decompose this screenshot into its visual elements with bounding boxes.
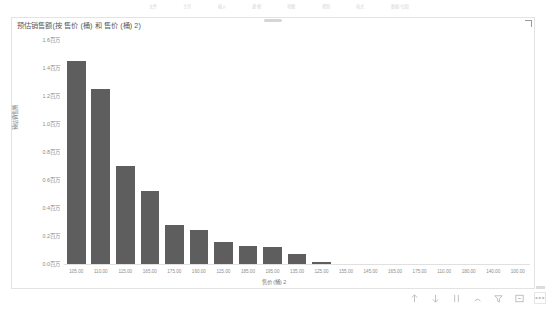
x-label-slot: 110.00 — [432, 266, 457, 278]
x-label-slot: 125.00 — [309, 266, 334, 278]
x-label-slot: 105.00 — [64, 266, 89, 278]
bar-slot — [407, 18, 432, 290]
more-options-dots: ••• — [535, 294, 545, 302]
more-options-icon[interactable]: ••• — [534, 292, 546, 304]
bar-slot — [89, 18, 114, 290]
scrollbar-thumb[interactable] — [536, 286, 545, 289]
visual-header-toolbar: ••• — [408, 292, 546, 304]
bar-slot — [236, 18, 261, 290]
x-label-slot: 115.00 — [113, 266, 138, 278]
y-axis-tick-label: 0.6百万 — [43, 176, 61, 184]
focus-mode-icon[interactable] — [513, 292, 525, 304]
x-label-slot: 175.00 — [162, 266, 187, 278]
y-axis-tick-labels: 1.6百万1.4百万1.2百万1.0百万0.8百万0.6百万0.4百万0.2百万… — [22, 18, 62, 290]
x-label-slot: 175.00 — [407, 266, 432, 278]
bar-slot — [358, 18, 383, 290]
x-axis-tick-label: 145.00 — [364, 269, 378, 274]
x-axis-tick-label: 165.00 — [143, 269, 157, 274]
x-axis-tick-label: 195.00 — [265, 269, 279, 274]
y-axis-tick-label: 0.4百万 — [43, 204, 61, 212]
y-axis-tick-label: 0.8百万 — [43, 148, 61, 156]
x-label-slot: 135.00 — [285, 266, 310, 278]
x-axis-tick-label: 105.00 — [69, 269, 83, 274]
bar[interactable] — [116, 166, 135, 264]
bar[interactable] — [141, 191, 160, 264]
bar-slot — [211, 18, 236, 290]
x-axis-tick-label: 175.00 — [167, 269, 181, 274]
x-label-slot: 180.00 — [456, 266, 481, 278]
plot-area: 预估销售额 1.6百万1.4百万1.2百万1.0百万0.8百万0.6百万0.4百… — [12, 18, 536, 290]
bar[interactable] — [214, 242, 233, 264]
x-label-slot: 110.00 — [89, 266, 114, 278]
x-axis-tick-label: 175.00 — [413, 269, 427, 274]
bar-slot — [334, 18, 359, 290]
x-label-slot: 160.00 — [187, 266, 212, 278]
bar-slot — [481, 18, 506, 290]
y-axis-tick-label: 1.6百万 — [43, 36, 61, 44]
bar-chart-visual[interactable]: 预估销售额(按 售价 (桶) 和 售价 (桶) 2) 预估销售额 1.6百万1.… — [11, 17, 535, 289]
ribbon-item: 视图 — [287, 3, 296, 9]
y-axis-tick-label: 0.0百万 — [43, 260, 61, 268]
x-label-slot: 185.00 — [236, 266, 261, 278]
bar-slot — [285, 18, 310, 290]
bar-slot — [187, 18, 212, 290]
x-axis-tick-label: 165.00 — [388, 269, 402, 274]
x-axis-tick-label: 110.00 — [94, 269, 108, 274]
x-label-slot: 195.00 — [260, 266, 285, 278]
bar-slot — [505, 18, 530, 290]
bar-slot — [260, 18, 285, 290]
ribbon-item: 格式 — [356, 3, 365, 9]
x-axis-title: 售价 (桶) 2 — [12, 278, 536, 286]
ribbon-item: 帮助 — [322, 3, 331, 9]
bar[interactable] — [239, 246, 258, 264]
screenshot-root: 文件 主页 插入 建模 视图 帮助 格式 数据/钻取 预估销售额(按 售价 (桶… — [0, 0, 558, 320]
x-axis-tick-label: 140.00 — [486, 269, 500, 274]
x-axis-tick-label: 185.00 — [241, 269, 255, 274]
ribbon-item: 插入 — [218, 3, 227, 9]
x-label-slot: 155.00 — [334, 266, 359, 278]
bar[interactable] — [165, 225, 184, 264]
bar[interactable] — [312, 262, 331, 264]
drill-up-icon[interactable] — [408, 292, 420, 304]
x-label-slot: 165.00 — [138, 266, 163, 278]
bar-slot — [113, 18, 138, 290]
drill-mode-icon[interactable] — [471, 292, 483, 304]
x-axis-tick-label: 115.00 — [118, 269, 132, 274]
bar-slot — [383, 18, 408, 290]
bar[interactable] — [288, 254, 307, 265]
x-label-slot: 165.00 — [383, 266, 408, 278]
x-axis-tick-label: 125.00 — [314, 269, 328, 274]
x-axis-tick-label: 115.00 — [217, 269, 231, 274]
x-label-slot: 145.00 — [358, 266, 383, 278]
ribbon-item: 文件 — [149, 3, 158, 9]
bar-slot — [64, 18, 89, 290]
bar-slot — [309, 18, 334, 290]
x-axis-tick-labels: 105.00110.00115.00165.00175.00160.00115.… — [64, 266, 530, 278]
bar[interactable] — [190, 230, 209, 264]
x-label-slot: 100.00 — [505, 266, 530, 278]
y-axis-title: 预估销售额 — [11, 105, 19, 130]
x-axis-tick-label: 155.00 — [339, 269, 353, 274]
y-axis-tick-label: 1.0百万 — [43, 120, 61, 128]
drill-down-icon[interactable] — [429, 292, 441, 304]
y-axis-tick-label: 1.4百万 — [43, 64, 61, 72]
filter-icon[interactable] — [492, 292, 504, 304]
bars-layer — [64, 18, 530, 290]
bar-slot — [432, 18, 457, 290]
bar-slot — [162, 18, 187, 290]
bar[interactable] — [67, 61, 86, 264]
expand-hierarchy-icon[interactable] — [450, 292, 462, 304]
x-axis-tick-label: 110.00 — [437, 269, 451, 274]
y-axis-tick-label: 0.2百万 — [43, 232, 61, 240]
app-ribbon-strip: 文件 主页 插入 建模 视图 帮助 格式 数据/钻取 — [0, 0, 558, 11]
ribbon-item: 数据/钻取 — [391, 3, 410, 9]
bar-slot — [456, 18, 481, 290]
x-axis-tick-label: 100.00 — [511, 269, 525, 274]
x-axis-tick-label: 180.00 — [462, 269, 476, 274]
bar[interactable] — [91, 89, 110, 264]
x-axis-tick-label: 135.00 — [290, 269, 304, 274]
x-axis-tick-label: 160.00 — [192, 269, 206, 274]
ribbon-item: 主页 — [183, 3, 192, 9]
bar[interactable] — [263, 247, 282, 264]
ribbon-item: 建模 — [252, 3, 261, 9]
